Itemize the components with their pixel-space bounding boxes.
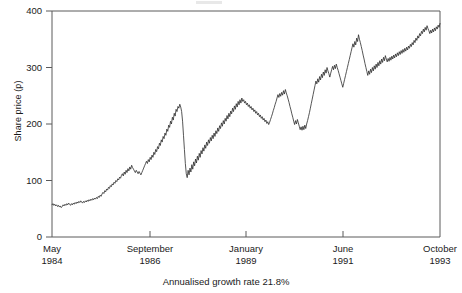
x-tick-month: June xyxy=(333,243,354,254)
y-tick-label: 0 xyxy=(8,232,42,242)
x-tick-year: 1989 xyxy=(201,255,291,267)
x-tick-month: January xyxy=(229,243,263,254)
y-tick-label: 200 xyxy=(8,119,42,129)
x-tick-year: 1991 xyxy=(298,255,388,267)
y-tick-label: 100 xyxy=(8,176,42,186)
x-tick-month: May xyxy=(43,243,61,254)
x-tick-label: January1989 xyxy=(201,243,291,266)
x-tick-year: 1993 xyxy=(395,255,462,267)
x-tick-label: May1984 xyxy=(7,243,97,266)
x-tick-label: October1993 xyxy=(395,243,462,266)
x-tick-month: October xyxy=(423,243,457,254)
x-tick-month: September xyxy=(127,243,173,254)
data-series-line-0 xyxy=(52,23,440,207)
x-tick-year: 1986 xyxy=(105,255,195,267)
chart-caption: Annualised growth rate 21.8% xyxy=(0,276,452,287)
x-tick-year: 1984 xyxy=(7,255,97,267)
plot-frame xyxy=(52,11,440,237)
x-tick-label: September1986 xyxy=(105,243,195,266)
y-tick-label: 400 xyxy=(8,6,42,16)
x-tick-label: June1991 xyxy=(298,243,388,266)
y-tick-label: 300 xyxy=(8,63,42,73)
